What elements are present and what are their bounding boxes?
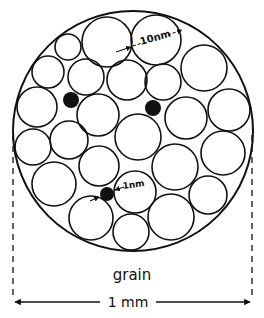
impurity-size-label: 1nm (122, 178, 145, 191)
crystallite (68, 59, 104, 95)
crystallite (201, 131, 245, 175)
crystallite (79, 146, 119, 186)
crystallite (145, 64, 181, 100)
crystallite (50, 121, 88, 159)
grain-size-label: 1 mm (108, 294, 149, 310)
grain-outline (13, 11, 253, 251)
crystallite (152, 144, 198, 190)
crystallite (181, 45, 227, 91)
crystallite (208, 89, 250, 131)
impurity-dot (145, 100, 161, 116)
impurity-dot (100, 187, 114, 201)
grain-diagram: 10nm 1nm grain 1 mm (0, 0, 264, 318)
crystallite (189, 176, 227, 214)
crystallite (17, 87, 57, 127)
crystallite (115, 114, 161, 160)
crystallite-size-label: 10nm (139, 28, 172, 47)
crystallite (55, 34, 81, 60)
impurity-dot (63, 92, 79, 108)
crystallite (15, 129, 51, 165)
crystallite-circles (15, 15, 250, 250)
crystallite (113, 214, 149, 250)
crystallite (165, 97, 207, 139)
crystallite (69, 196, 113, 240)
crystallite (107, 60, 147, 100)
grain-label: grain (113, 266, 152, 284)
crystallite (77, 94, 119, 136)
crystallite (32, 162, 76, 206)
crystallite (148, 194, 194, 240)
